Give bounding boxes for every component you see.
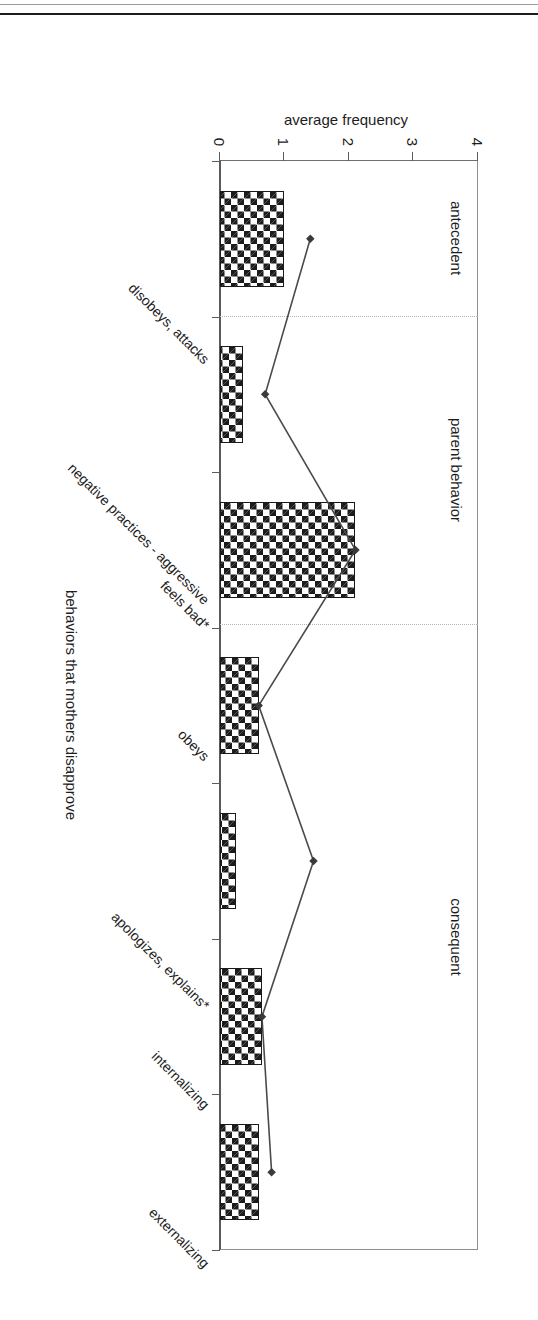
scan-edge-rule-thin	[0, 4, 538, 5]
line-marker-5	[258, 1012, 266, 1020]
value-tick-0	[219, 152, 220, 161]
line-marker-1	[261, 390, 269, 398]
category-label-0: disobeys, attacks	[125, 280, 212, 367]
rotated-figure-stage: average frequency 0 1 2 3 4 antecedent p…	[34, 40, 504, 1280]
value-tick-label-4: 4	[470, 118, 485, 146]
category-label-6: externalizing	[146, 1205, 212, 1271]
category-tick-0	[212, 161, 220, 162]
figure-page: average frequency 0 1 2 3 4 antecedent p…	[0, 0, 538, 1320]
category-tick-5	[212, 939, 220, 940]
category-tick-4	[212, 783, 220, 784]
category-axis-title: behaviors that mothers disapprove	[63, 160, 80, 1250]
value-tick-label-0: 0	[212, 118, 227, 146]
category-tick-3	[212, 628, 220, 629]
line-marker-2	[351, 546, 359, 554]
value-tick-label-3: 3	[406, 118, 421, 146]
category-label-3: obeys	[175, 726, 212, 763]
category-label-1: negative practices - aggressive	[65, 461, 212, 608]
category-tick-2	[212, 472, 220, 473]
category-tick-6	[212, 1094, 220, 1095]
scan-edge-rule-thick	[0, 13, 538, 15]
category-label-4: apologizes, explains*	[108, 910, 212, 1014]
line-marker-0	[306, 235, 314, 243]
line-series-svg	[220, 161, 478, 1250]
value-tick-label-1: 1	[277, 118, 292, 146]
value-tick-3	[413, 152, 414, 161]
line-series-layer	[220, 161, 478, 1250]
line-marker-3	[254, 701, 262, 709]
category-labels-layer: disobeys, attacksnegative practices - ag…	[82, 161, 212, 1250]
category-label-5: internalizing	[149, 1049, 212, 1112]
line-path	[259, 239, 356, 1172]
category-tick-1	[212, 317, 220, 318]
value-tick-4	[477, 152, 478, 161]
value-tick-1	[284, 152, 285, 161]
value-tick-label-2: 2	[341, 118, 356, 146]
line-marker-6	[267, 1168, 275, 1176]
line-marker-4	[309, 857, 317, 865]
category-tick-7	[212, 1250, 220, 1251]
value-tick-2	[348, 152, 349, 161]
